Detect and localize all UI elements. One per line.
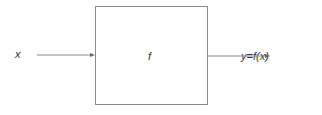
arrows — [0, 0, 322, 115]
output-arrow — [208, 54, 270, 58]
input-arrow — [37, 53, 95, 57]
